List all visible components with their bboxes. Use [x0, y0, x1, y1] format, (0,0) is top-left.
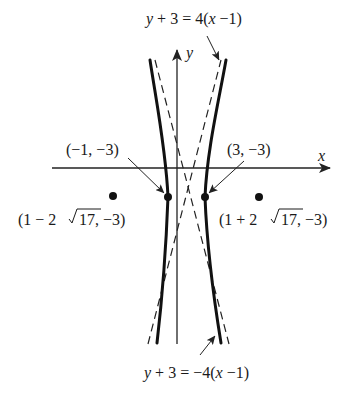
vertex-right-pointer [209, 161, 244, 193]
vertex-left-label: (−1, −3) [66, 141, 119, 159]
asymptote-upper-pointer [207, 36, 219, 60]
vertex-right-point [201, 193, 209, 201]
vertex-left-point [164, 193, 172, 201]
focus-left-point [109, 192, 117, 200]
asymptote-lower-label: y + 3 = −4(x −1) [142, 364, 249, 382]
svg-text:17, −3): 17, −3) [79, 211, 125, 229]
svg-text:(1 + 2: (1 + 2 [219, 211, 257, 229]
asymptote-positive-slope [148, 60, 221, 344]
y-axis-label: y [184, 44, 194, 62]
svg-text:17, −3): 17, −3) [281, 211, 327, 229]
x-axis-label: x [317, 147, 325, 164]
asymptote-lower-pointer [200, 336, 215, 355]
hyperbola-diagram: x y y + 3 = 4(x −1) y + 3 = −4(x −1) (−1… [0, 0, 362, 399]
asymptote-upper-label: y + 3 = 4(x −1) [144, 10, 242, 28]
focus-right-point [255, 193, 263, 201]
focus-right-label: (1 + 2 17, −3) [219, 209, 327, 229]
vertex-right-label: (3, −3) [227, 141, 271, 159]
vertex-left-pointer [128, 158, 164, 193]
svg-text:(1 − 2: (1 − 2 [18, 211, 56, 229]
focus-left-label: (1 − 2 17, −3) [18, 209, 125, 229]
hyperbola-right-branch [205, 60, 226, 343]
